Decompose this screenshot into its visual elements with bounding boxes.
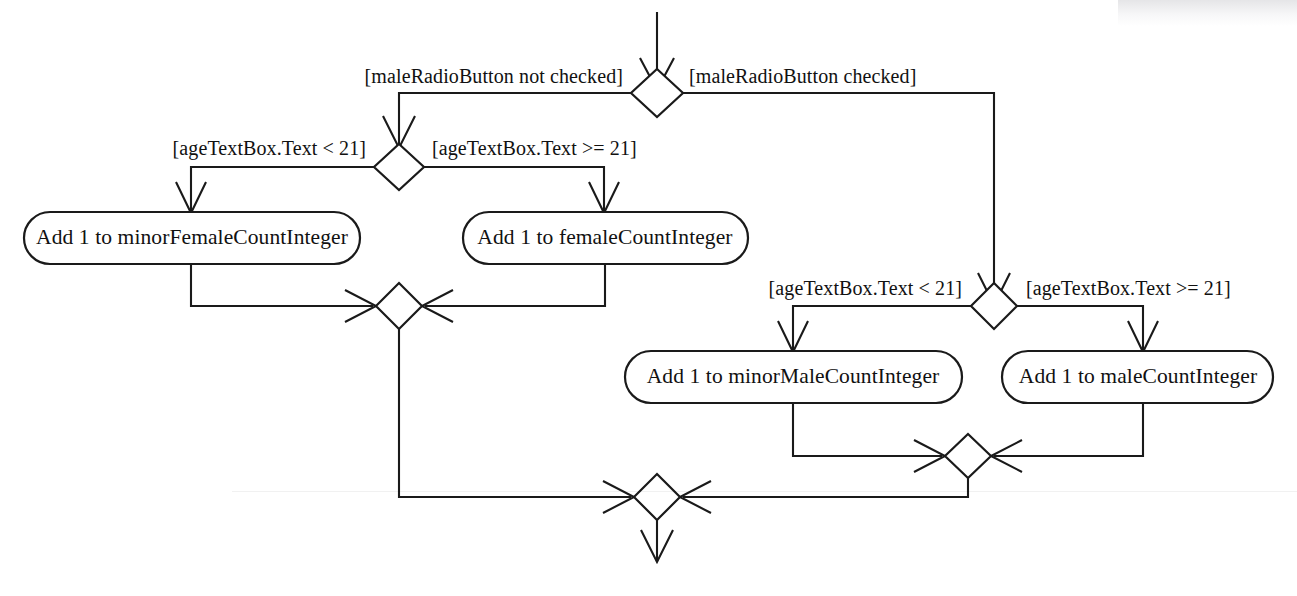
male-radio-button-decision — [631, 69, 683, 117]
guard-male-radio-checked: [maleRadioButton checked] — [689, 65, 916, 87]
guard-male-age-under-21: [ageTextBox.Text < 21] — [769, 277, 962, 300]
guard-male-radio-not-checked: [maleRadioButton not checked] — [365, 65, 623, 87]
female-branch-merge — [376, 283, 422, 329]
flow-final-out — [641, 520, 673, 562]
activity-diagram-canvas: [maleRadioButton not checked] [maleRadio… — [0, 0, 1297, 596]
flow-minor-male-to-merge — [793, 403, 945, 472]
flow-female-to-merge — [422, 264, 605, 322]
final-merge — [634, 474, 680, 520]
flow-male-age-to-minor-male — [778, 306, 971, 352]
guard-female-age-under-21: [ageTextBox.Text < 21] — [173, 137, 366, 160]
action-minor-male-label: Add 1 to minorMaleCountInteger — [647, 364, 940, 388]
flow-female-age-to-minor-female — [176, 167, 374, 213]
activity-diagram: [maleRadioButton not checked] [maleRadio… — [0, 0, 1297, 596]
action-female: Add 1 to femaleCountInteger — [463, 212, 748, 264]
action-minor-female-label: Add 1 to minorFemaleCountInteger — [36, 225, 348, 249]
flow-gender-to-male-age — [683, 93, 1010, 305]
action-minor-male: Add 1 to minorMaleCountInteger — [625, 351, 962, 403]
action-male: Add 1 to maleCountInteger — [1002, 351, 1273, 403]
male-branch-merge — [945, 434, 991, 478]
guard-female-age-21-or-over: [ageTextBox.Text >= 21] — [432, 137, 637, 160]
action-male-label: Add 1 to maleCountInteger — [1019, 364, 1257, 388]
flow-male-age-to-male — [1017, 306, 1158, 352]
flow-male-merge-to-final — [680, 478, 968, 513]
flow-minor-female-to-merge — [191, 264, 376, 322]
guard-male-age-21-or-over: [ageTextBox.Text >= 21] — [1026, 277, 1231, 300]
male-age-decision — [971, 283, 1017, 329]
action-female-label: Add 1 to femaleCountInteger — [477, 225, 732, 249]
female-age-decision — [374, 144, 424, 190]
flow-female-age-to-female — [424, 167, 619, 213]
flow-female-merge-to-final — [399, 329, 634, 513]
flow-male-to-merge — [991, 403, 1143, 472]
action-minor-female: Add 1 to minorFemaleCountInteger — [24, 212, 360, 264]
